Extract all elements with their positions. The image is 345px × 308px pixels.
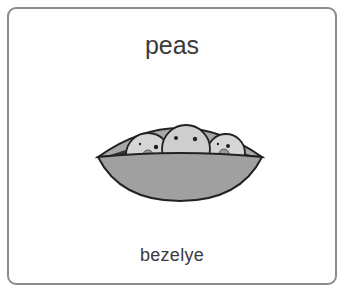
card-title: peas	[9, 31, 335, 60]
vocabulary-card[interactable]: peas bezelye	[7, 7, 337, 285]
card-subtitle: bezelye	[9, 245, 335, 266]
pea-pod-icon	[90, 109, 270, 204]
